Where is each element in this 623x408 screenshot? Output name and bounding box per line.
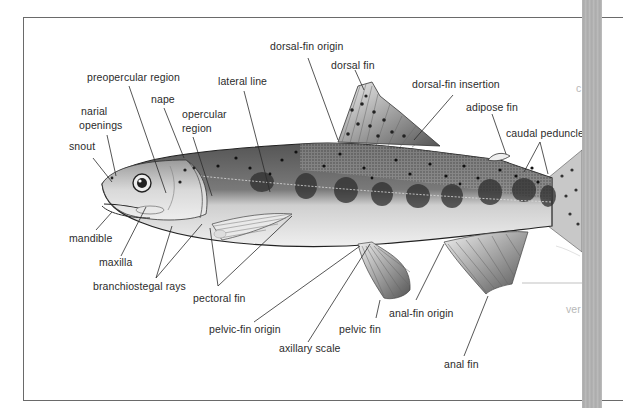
label-preopercular-region: preopercular region: [87, 71, 180, 84]
label-pelvic-fin-origin: pelvic-fin origin: [209, 323, 281, 336]
label-anal-fin-origin: anal-fin origin: [389, 307, 454, 320]
label-branchiostegal-rays: branchiostegal rays: [93, 280, 186, 293]
label-cutoff-bottom: ver: [566, 303, 581, 316]
label-dorsal-fin-insertion: dorsal-fin insertion: [412, 78, 500, 91]
dorsal-fin-shape: [338, 82, 440, 147]
label-dorsal-fin-origin: dorsal-fin origin: [270, 40, 343, 53]
label-maxilla: maxilla: [99, 256, 132, 269]
label-caudal-peduncle: caudal peduncle: [506, 127, 584, 140]
label-lateral-line: lateral line: [218, 75, 267, 88]
label-anal-fin: anal fin: [444, 358, 479, 371]
anal-fin-shape: [444, 232, 528, 294]
adipose-fin-shape: [488, 153, 510, 160]
label-mandible: mandible: [69, 232, 112, 245]
label-dorsal-fin: dorsal fin: [331, 59, 375, 72]
label-opercular-region-line2: region: [182, 122, 212, 135]
label-narial-openings-line1: narial: [81, 105, 107, 118]
label-axillary-scale: axillary scale: [279, 342, 341, 355]
label-cutoff-top: c: [576, 82, 581, 95]
label-pelvic-fin: pelvic fin: [339, 323, 381, 336]
label-narial-openings-line2: openings: [79, 119, 122, 132]
page-gutter: [582, 0, 602, 408]
label-nape: nape: [151, 93, 175, 106]
label-adipose-fin: adipose fin: [466, 101, 518, 114]
label-pectoral-fin: pectoral fin: [193, 292, 246, 305]
label-opercular-region-line1: opercular: [182, 108, 227, 121]
label-snout: snout: [69, 140, 95, 153]
